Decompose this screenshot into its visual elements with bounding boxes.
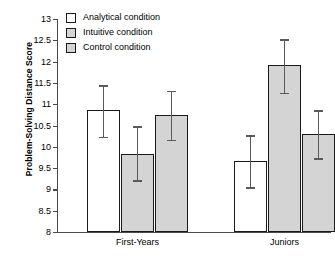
y-axis-tick — [53, 104, 58, 105]
y-axis-tick-label: 10 — [41, 142, 51, 151]
y-axis-tick — [53, 232, 58, 233]
legend: Analytical condition Intuitive condition… — [66, 10, 160, 55]
error-bar-cap-lower — [314, 158, 323, 160]
error-bar-cap-upper — [246, 135, 255, 137]
y-axis-tick-label: 12.5 — [33, 36, 51, 45]
y-axis-tick — [53, 189, 58, 190]
legend-item: Intuitive condition — [66, 25, 160, 40]
x-axis-label-juniors: Juniors — [270, 237, 299, 247]
error-bar-cap-lower — [246, 187, 255, 189]
y-axis-tick — [53, 147, 58, 148]
x-axis-line — [57, 232, 331, 233]
y-axis-tick — [53, 168, 58, 169]
y-axis-tick — [53, 211, 58, 212]
y-axis-tick-label: 13 — [41, 15, 51, 24]
y-axis-tick-label: 11.5 — [34, 78, 51, 87]
error-bar-cap-lower — [99, 137, 108, 139]
error-bar-stem — [318, 110, 319, 158]
error-bar-cap-upper — [99, 85, 108, 87]
error-bar-stem — [137, 126, 138, 180]
error-bar-cap-upper — [133, 126, 142, 128]
legend-swatch-intuitive — [66, 28, 76, 38]
bar-chart: Problem-Solving Distance Score 88.599.51… — [0, 0, 335, 260]
legend-swatch-control — [66, 43, 76, 53]
legend-item: Analytical condition — [66, 10, 160, 25]
legend-label-intuitive: Intuitive condition — [83, 28, 153, 37]
y-axis-tick — [53, 83, 58, 84]
y-axis-tick — [53, 126, 58, 127]
y-axis-tick-label: 8 — [46, 228, 51, 237]
error-bar-cap-lower — [133, 180, 142, 182]
error-bar-cap-lower — [167, 140, 176, 142]
legend-item: Control condition — [66, 40, 160, 55]
error-bar-stem — [103, 85, 104, 137]
legend-label-analytical: Analytical condition — [83, 13, 160, 22]
legend-swatch-analytical — [66, 13, 76, 23]
error-bar-stem — [250, 135, 251, 187]
error-bar-stem — [171, 91, 172, 140]
y-axis-tick-label: 9 — [46, 185, 51, 194]
error-bar — [268, 19, 301, 232]
error-bar-cap-lower — [280, 93, 289, 95]
y-axis-tick-label: 9.5 — [38, 164, 51, 173]
error-bar-cap-upper — [167, 91, 176, 93]
y-axis-tick-label: 10.5 — [33, 121, 51, 130]
y-axis-tick-label: 8.5 — [38, 206, 51, 215]
error-bar-cap-upper — [314, 110, 323, 112]
error-bar-stem — [284, 39, 285, 92]
y-axis-tick — [53, 40, 58, 41]
error-bar — [234, 19, 267, 232]
x-axis-label-first-years: First-Years — [116, 237, 159, 247]
y-axis-line — [57, 19, 58, 232]
y-axis-tick-label: 11 — [42, 100, 51, 109]
error-bar-cap-upper — [280, 39, 289, 41]
y-axis-tick — [53, 19, 58, 20]
y-axis-tick — [53, 62, 58, 63]
error-bar — [302, 19, 335, 232]
y-axis-tick-label: 12 — [41, 57, 51, 66]
legend-label-control: Control condition — [83, 43, 151, 52]
